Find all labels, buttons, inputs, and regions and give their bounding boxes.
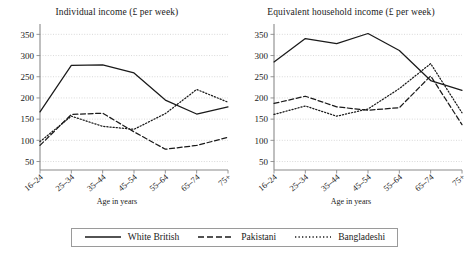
series-line-bangladeshi: [40, 89, 228, 141]
figure: Individual income (£ per week) 501001502…: [0, 0, 469, 261]
svg-text:150: 150: [21, 114, 35, 124]
legend-swatch-dashed-icon: [197, 232, 235, 242]
line-chart-equivalent-household-income: 5010015020025030035016–2425–3435–4445–54…: [234, 18, 468, 200]
legend-box: White British Pakistani Bangladeshi: [71, 228, 398, 247]
series-line-bangladeshi: [274, 64, 462, 117]
svg-text:300: 300: [21, 51, 35, 61]
svg-text:65–74: 65–74: [413, 171, 436, 193]
legend-label: White British: [128, 232, 179, 242]
legend: White British Pakistani Bangladeshi: [0, 228, 469, 247]
svg-text:75+: 75+: [216, 172, 233, 188]
line-chart-individual-income: 5010015020025030035016–2425–3435–4445–54…: [0, 18, 234, 200]
legend-item-bangladeshi: Bangladeshi: [294, 232, 385, 242]
svg-text:65–74: 65–74: [179, 171, 202, 193]
legend-swatch-dotted-icon: [294, 232, 332, 242]
panel-title: Equivalent household income (£ per week): [234, 7, 468, 17]
panel-equivalent-household-income: Equivalent household income (£ per week)…: [234, 0, 468, 215]
svg-text:150: 150: [255, 114, 269, 124]
legend-item-white-british: White British: [84, 232, 179, 242]
series-line-white-british: [40, 65, 228, 114]
svg-text:16–24: 16–24: [22, 171, 45, 193]
svg-text:100: 100: [21, 136, 35, 146]
svg-text:55–64: 55–64: [381, 171, 404, 193]
svg-text:45–54: 45–54: [350, 171, 373, 193]
svg-text:75+: 75+: [450, 172, 467, 188]
svg-text:200: 200: [255, 93, 269, 103]
panel-container: Individual income (£ per week) 501001502…: [0, 0, 469, 215]
x-axis-title: Age in years: [0, 197, 234, 206]
svg-text:55–64: 55–64: [147, 171, 170, 193]
svg-text:35–44: 35–44: [319, 171, 342, 193]
legend-label: Pakistani: [241, 232, 276, 242]
svg-text:250: 250: [21, 72, 35, 82]
series-line-pakistani: [40, 113, 228, 149]
svg-text:350: 350: [255, 30, 269, 40]
svg-text:100: 100: [255, 136, 269, 146]
svg-text:50: 50: [25, 157, 35, 167]
legend-label: Bangladeshi: [338, 232, 385, 242]
svg-text:16–24: 16–24: [256, 171, 279, 193]
panel-title: Individual income (£ per week): [0, 7, 234, 17]
panel-individual-income: Individual income (£ per week) 501001502…: [0, 0, 234, 215]
svg-text:250: 250: [255, 72, 269, 82]
svg-text:25–34: 25–34: [287, 171, 310, 193]
svg-text:200: 200: [21, 93, 35, 103]
svg-text:35–44: 35–44: [85, 171, 108, 193]
svg-text:50: 50: [259, 157, 269, 167]
legend-item-pakistani: Pakistani: [197, 232, 276, 242]
svg-text:25–34: 25–34: [53, 171, 76, 193]
x-axis-title: Age in years: [234, 197, 468, 206]
legend-swatch-solid-icon: [84, 232, 122, 242]
series-line-pakistani: [274, 76, 462, 125]
svg-text:300: 300: [255, 51, 269, 61]
svg-text:45–54: 45–54: [116, 171, 139, 193]
svg-text:350: 350: [21, 30, 35, 40]
